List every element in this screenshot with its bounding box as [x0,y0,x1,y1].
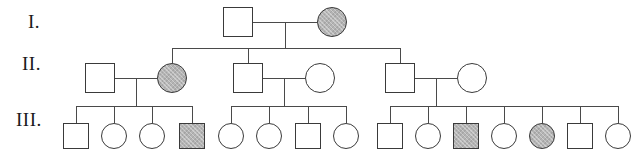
sibship-II-right-child-drop-5 [542,106,543,123]
individual-III-4-male-affected [179,123,205,149]
individual-III-6-female-unaffected [256,123,282,149]
individual-III-3-female-unaffected [139,123,165,149]
individual-III-5-female-unaffected [218,123,244,149]
individual-II-3-male-unaffected [233,63,263,93]
individual-III-13-female-affected [529,123,555,149]
individual-III-2-female-unaffected [101,123,127,149]
sibship-II-left-child-drop-2 [114,106,115,123]
mating-II-middle-descent-line [284,78,285,106]
individual-II-6-female-unaffected [457,63,487,93]
sibship-II-middle-child-drop-4 [346,106,347,123]
mating-II-right-descent-line [436,78,437,106]
sibship-II-right-child-drop-1 [390,106,391,123]
individual-III-8-female-unaffected [333,123,359,149]
gen-1-label: I. [28,11,40,33]
sibship-II-right-child-drop-2 [428,106,429,123]
individual-I-2-female-affected [317,7,347,37]
individual-II-2-female-affected [157,63,187,93]
individual-I-1-male-unaffected [223,7,253,37]
sibship-I-child-drop-1 [172,48,173,63]
individual-III-15-female-unaffected [605,123,631,149]
sibship-II-right-child-drop-7 [618,106,619,123]
individual-III-1-male-unaffected [63,123,89,149]
sibship-II-middle-child-drop-3 [308,106,309,123]
pedigree-chart: I.II.III. [0,0,637,158]
sibship-II-left-sibling-bar [76,106,192,107]
sibship-II-left-child-drop-3 [152,106,153,123]
gen-3-label: III. [16,109,42,131]
mating-II-left-descent-line [136,78,137,106]
individual-II-5-male-unaffected [385,63,415,93]
sibship-II-middle-child-drop-1 [231,106,232,123]
individual-III-12-female-unaffected [491,123,517,149]
individual-III-14-male-unaffected [567,123,593,149]
gen-2-label: II. [22,53,41,75]
sibship-II-left-child-drop-4 [192,106,193,123]
sibship-II-right-child-drop-4 [504,106,505,123]
individual-III-11-male-affected [453,123,479,149]
individual-III-10-female-unaffected [415,123,441,149]
sibship-I-sibling-bar [172,48,400,49]
individual-III-7-male-unaffected [295,123,321,149]
sibship-II-middle-child-drop-2 [269,106,270,123]
sibship-II-middle-sibling-bar [231,106,346,107]
sibship-I-child-drop-3 [400,48,401,63]
sibship-II-right-child-drop-3 [466,106,467,123]
sibship-II-left-child-drop-1 [76,106,77,123]
sibship-II-right-child-drop-6 [580,106,581,123]
mating-I-descent-line [285,22,286,48]
sibship-I-child-drop-2 [248,48,249,63]
individual-II-1-male-unaffected [85,63,115,93]
individual-II-4-female-unaffected [305,63,335,93]
individual-III-9-male-unaffected [377,123,403,149]
